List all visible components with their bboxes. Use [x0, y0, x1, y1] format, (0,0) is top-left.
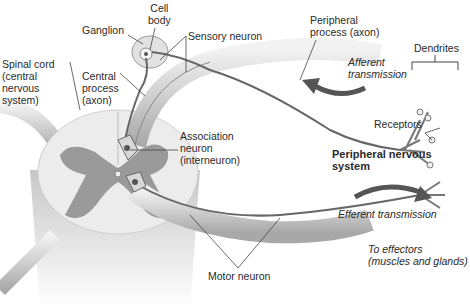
label-receptors: Receptors — [374, 118, 422, 130]
dendrites-bracket — [412, 55, 458, 70]
label-central-process: Central process (axon) — [82, 70, 119, 106]
neuron-diagram: Cell body Ganglion Sensory neuron Periph… — [0, 0, 470, 308]
label-spinal-cord: Spinal cord (central nervous system) — [2, 58, 55, 106]
label-ganglion: Ganglion — [82, 24, 124, 36]
label-peripheral-process: Peripheral process (axon) — [310, 14, 379, 38]
afferent-arrow-icon — [302, 78, 365, 94]
label-peripheral-nervous-system: Peripheral nervous system — [332, 148, 470, 172]
label-motor-neuron: Motor neuron — [208, 270, 270, 282]
label-cell-body: Cell body — [148, 2, 171, 26]
label-to-effectors: To effectors (muscles and glands) — [368, 243, 468, 267]
label-efferent-transmission: Efferent transmission — [338, 208, 437, 220]
label-association-neuron: Association neuron (interneuron) — [180, 130, 240, 166]
label-sensory-neuron: Sensory neuron — [188, 30, 262, 42]
label-dendrites: Dendrites — [414, 42, 459, 54]
label-afferent-transmission: Afferent transmission — [348, 56, 407, 80]
